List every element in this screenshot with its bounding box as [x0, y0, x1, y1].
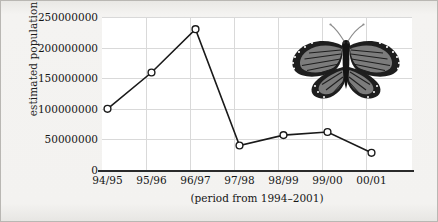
- line-chart: estimated population 0 50000000 10000000…: [1, 1, 438, 222]
- data-series: [102, 17, 412, 170]
- y-tick-label: 200000000: [6, 42, 98, 54]
- data-point: [192, 26, 199, 33]
- y-tick-label: 150000000: [6, 72, 98, 84]
- data-point: [280, 132, 287, 139]
- chart-figure: estimated population 0 50000000 10000000…: [0, 0, 438, 222]
- y-tick-label: 100000000: [6, 103, 98, 115]
- x-tick-label: 00/01: [344, 174, 400, 186]
- y-axis-tick-labels: 0 50000000 100000000 150000000 200000000…: [1, 1, 98, 222]
- y-tick-label: 250000000: [6, 11, 98, 23]
- series-line: [108, 29, 372, 153]
- data-point: [236, 142, 243, 149]
- data-point: [148, 69, 155, 76]
- x-axis-title: (period from 1994–2001): [102, 192, 412, 204]
- data-point: [104, 105, 111, 112]
- data-point: [324, 129, 331, 136]
- y-tick-label: 50000000: [6, 133, 98, 145]
- data-point: [368, 149, 375, 156]
- x-axis-line: [98, 170, 414, 172]
